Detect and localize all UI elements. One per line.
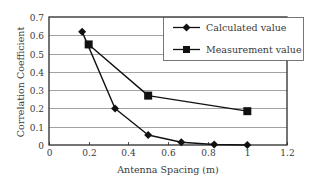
y-tick-label: 0.7	[30, 13, 45, 23]
legend: Calculated value Measurement value	[164, 18, 304, 61]
y-tick-label: 0.2	[30, 104, 44, 114]
y-tick-label: 0.4	[30, 68, 45, 78]
x-tick-label: 1.2	[280, 148, 294, 158]
x-tick-label: 0.6	[161, 148, 176, 158]
correlation-chart: 00.10.20.30.40.50.60.7 00.20.40.60.811.2…	[0, 0, 318, 183]
x-tick-label: 0.4	[121, 148, 136, 158]
y-tick-label: 0.3	[30, 86, 45, 96]
y-tick-label: 0.5	[30, 50, 45, 60]
x-tick-label: 0.2	[82, 148, 96, 158]
square-marker-icon	[183, 46, 190, 53]
y-tick-label: 0.6	[30, 31, 45, 41]
x-tick-label: 1	[245, 148, 251, 158]
diamond-marker-icon	[78, 28, 86, 36]
square-marker-icon	[85, 40, 93, 48]
x-tick-label: 0	[47, 148, 53, 158]
legend-label: Calculated value	[206, 22, 287, 33]
y-axis-ticks: 00.10.20.30.40.50.60.7	[30, 13, 45, 151]
y-tick-label: 0.1	[30, 123, 44, 133]
x-axis-title: Antenna Spacing (m)	[116, 164, 219, 175]
y-tick-label: 0	[38, 141, 44, 151]
legend-label: Measurement value	[206, 44, 302, 55]
x-tick-label: 0.8	[201, 148, 216, 158]
square-marker-icon	[243, 107, 251, 115]
y-axis-title: Correlation Coefficient	[15, 27, 26, 138]
square-marker-icon	[144, 92, 152, 100]
